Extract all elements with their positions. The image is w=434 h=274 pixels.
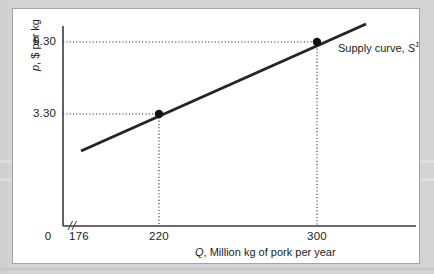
supply-curve-label-superscript: 1 [415, 40, 419, 49]
data-point-300-530 [313, 38, 321, 46]
x-tick-label-176: 176 [64, 231, 94, 242]
x-tick-label-0: 0 [41, 231, 55, 242]
figure-panel: 5.30 3.30 0 176 220 300 p, $ per kg Q, M… [12, 8, 420, 264]
supply-curve-label: Supply curve, S1 [338, 40, 420, 54]
supply-curve-label-text: Supply curve, [338, 42, 408, 54]
y-tick-label-330: 3.30 [33, 108, 56, 119]
y-axis-symbol: p [29, 65, 41, 71]
y-axis-title: p, $ per kg [29, 8, 41, 83]
x-axis-symbol: Q [195, 246, 204, 258]
supply-curve-label-symbol: S [408, 42, 415, 54]
x-axis-title: Q, Million kg of pork per year [195, 246, 336, 258]
x-tick-label-220: 220 [144, 231, 174, 242]
y-axis-title-text: , $ per kg [29, 19, 41, 65]
x-axis-title-text: , Million kg of pork per year [204, 246, 336, 258]
data-point-220-330 [155, 110, 163, 118]
scan-artifact-bottom [0, 268, 434, 270]
page-background: 5.30 3.30 0 176 220 300 p, $ per kg Q, M… [0, 0, 434, 274]
x-tick-label-300: 300 [302, 231, 332, 242]
supply-curve-line [81, 24, 366, 151]
